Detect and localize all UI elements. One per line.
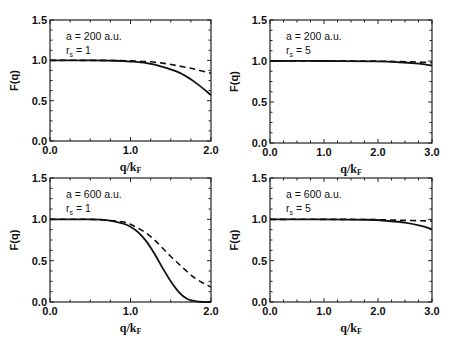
y-tick-label: 1.0 — [252, 213, 267, 225]
solid-curve — [270, 219, 432, 229]
x-tick-label: 1.0 — [316, 305, 331, 317]
annotation-rs: rs = 5 — [286, 202, 311, 216]
y-axis-label: F(q) — [228, 229, 240, 250]
x-tick-label: 2.0 — [370, 305, 385, 317]
annotation-a: a = 600 a.u. — [286, 188, 342, 200]
x-axis-label: q/kF — [340, 321, 362, 336]
y-tick-label: 0.0 — [252, 296, 267, 308]
x-tick-label: 3.0 — [424, 305, 439, 317]
chart-svg: 0.01.02.03.00.00.51.01.5q/kFF(q)a = 600 … — [0, 0, 454, 345]
y-tick-label: 0.5 — [252, 255, 267, 267]
y-tick-label: 1.5 — [252, 172, 267, 184]
